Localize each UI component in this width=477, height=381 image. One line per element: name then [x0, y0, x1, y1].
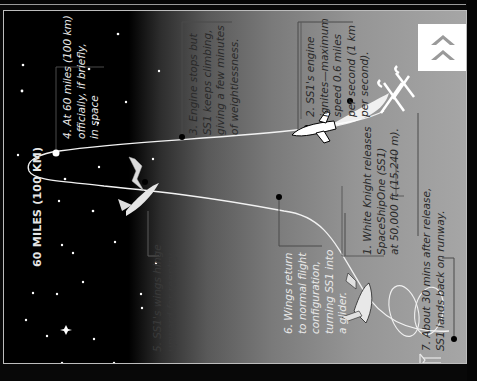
runway-icon — [420, 354, 441, 363]
double-chevron-up-icon — [428, 32, 458, 64]
step-3-line: giving a few minutes — [214, 25, 228, 135]
step-2-line: per second). — [358, 18, 372, 117]
callout-step-7: 7. About 30 mins after release, SS1 land… — [420, 188, 447, 351]
step-2-line: 2. SS1's engine — [304, 18, 318, 117]
step-5-line: upward for reentry. — [165, 244, 179, 352]
step-6-line: a glider. — [336, 250, 350, 334]
right-border — [467, 0, 477, 381]
step-6-line: to normal flight — [296, 250, 310, 334]
spaceship-reentry — [118, 157, 159, 216]
step-1-line: 1. White Knight releases — [361, 127, 375, 255]
white-knight-aircraft — [378, 66, 414, 113]
step-7-line: 7. About 30 mins after release, — [420, 188, 434, 351]
callout-step-2: 2. SS1's engine ignites—maximum speed 0.… — [304, 18, 372, 117]
callout-step-6: 6. Wings return to normal flight configu… — [282, 250, 350, 334]
step-4-line: 4. At 60 miles (100 km) — [61, 15, 75, 139]
top-border — [0, 0, 466, 5]
callout-step-5: 5. SS1's wings hinge upward for reentry. — [151, 244, 178, 352]
step-5-line: 5. SS1's wings hinge — [151, 244, 165, 352]
step-6-line: 6. Wings return — [282, 250, 296, 334]
step-3-line: of weightlessness. — [228, 25, 242, 135]
step-2-line: speed 0.6 miles — [331, 18, 345, 117]
step-1-line: SpaceShipOne (SS1) — [375, 127, 389, 255]
callout-step-3: 3. Engine stops but SS1 keeps climbing, … — [187, 25, 241, 135]
step-6-line: configuration, — [309, 250, 323, 334]
step-2-line: ignites—maximum — [318, 18, 332, 117]
step-4-line: in space — [88, 15, 102, 139]
step-1-line: at 50,000 ft (15,240 m). — [388, 127, 402, 255]
callout-step-1: 1. White Knight releases SpaceShipOne (S… — [361, 127, 402, 255]
step-3-line: SS1 keeps climbing, — [201, 25, 215, 135]
step-7-line: SS1 lands back on runway. — [434, 188, 448, 351]
step-6-line: turning SS1 into — [323, 250, 337, 334]
scroll-up-button[interactable] — [418, 24, 467, 71]
step-3-line: 3. Engine stops but — [187, 25, 201, 135]
step-4-line: officially, if briefly, — [75, 15, 89, 139]
step-2-line: per second (1 km — [345, 18, 359, 117]
apogee-marker — [53, 150, 60, 157]
altitude-label: 60 MILES (100 KM) — [31, 147, 44, 267]
flight-profile-diagram: 60 MILES (100 KM) 4. At 60 miles (100 km… — [3, 10, 467, 364]
callout-step-4: 4. At 60 miles (100 km) officially, if b… — [61, 15, 102, 139]
